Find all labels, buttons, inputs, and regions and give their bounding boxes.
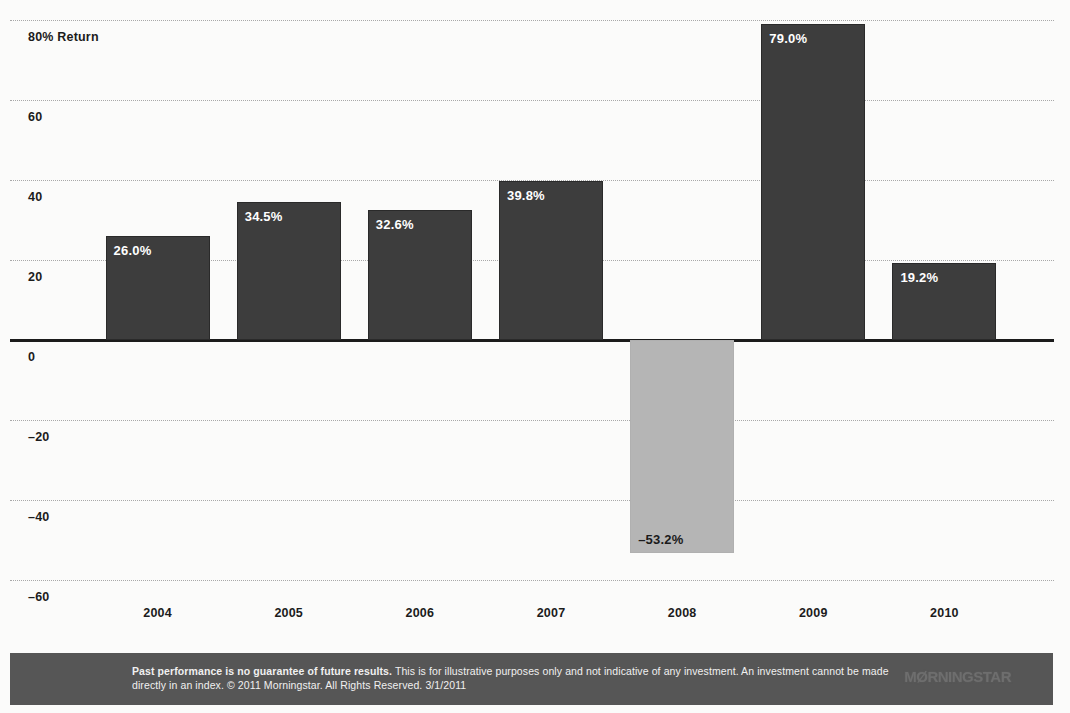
bar-value-label-2008: –53.2% xyxy=(638,532,683,547)
x-axis-label-2008: 2008 xyxy=(617,606,748,620)
bar-2007[interactable]: 39.8% xyxy=(499,181,603,340)
x-axis-label-2006: 2006 xyxy=(354,606,485,620)
x-axis-label-2004: 2004 xyxy=(92,606,223,620)
disclaimer-lead: Past performance is no guarantee of futu… xyxy=(132,665,392,677)
bar-2005[interactable]: 34.5% xyxy=(237,202,341,340)
bar-2004[interactable]: 26.0% xyxy=(106,236,210,340)
y-axis-label--20: –20 xyxy=(28,430,49,444)
morningstar-logo: MØRNINGSTAR xyxy=(904,668,1011,685)
bar-2009[interactable]: 79.0% xyxy=(761,24,865,340)
bar-2008[interactable]: –53.2% xyxy=(630,340,734,553)
bar-value-label-2006: 32.6% xyxy=(376,217,414,232)
x-axis-label-2010: 2010 xyxy=(879,606,1010,620)
bar-chart-figure: 80% Return6040200–20–40–6026.0%200434.5%… xyxy=(0,0,1070,713)
x-axis-label-2007: 2007 xyxy=(485,606,616,620)
gridline-60 xyxy=(10,100,1054,101)
y-axis-label-80: 80% Return xyxy=(28,30,99,44)
y-axis-label--60: –60 xyxy=(28,590,49,604)
y-axis-label--40: –40 xyxy=(28,510,49,524)
bar-value-label-2004: 26.0% xyxy=(114,243,152,258)
footer-disclaimer-bar: Past performance is no guarantee of futu… xyxy=(10,653,1053,705)
bar-value-label-2005: 34.5% xyxy=(245,209,283,224)
bar-2006[interactable]: 32.6% xyxy=(368,210,472,340)
gridline--60 xyxy=(10,580,1054,581)
disclaimer-text: Past performance is no guarantee of futu… xyxy=(132,664,892,692)
bar-value-label-2009: 79.0% xyxy=(769,31,807,46)
x-axis-label-2009: 2009 xyxy=(748,606,879,620)
bar-value-label-2010: 19.2% xyxy=(900,270,938,285)
y-axis-label-0: 0 xyxy=(28,350,35,364)
gridline--40 xyxy=(10,500,1054,501)
gridline--20 xyxy=(10,420,1054,421)
bar-value-label-2007: 39.8% xyxy=(507,188,545,203)
x-axis-label-2005: 2005 xyxy=(223,606,354,620)
plot-area: 80% Return6040200–20–40–6026.0%200434.5%… xyxy=(10,8,1054,620)
gridline-80 xyxy=(10,20,1054,21)
y-axis-label-40: 40 xyxy=(28,190,42,204)
bar-2010[interactable]: 19.2% xyxy=(892,263,996,340)
y-axis-label-60: 60 xyxy=(28,110,42,124)
y-axis-label-20: 20 xyxy=(28,270,42,284)
